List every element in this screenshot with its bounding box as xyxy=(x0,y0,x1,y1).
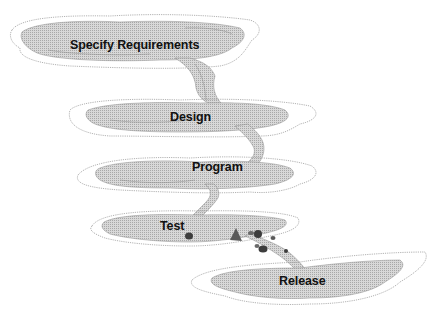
rock-icon xyxy=(259,246,268,253)
waterfall-diagram: Specify Requirements Design Program Test… xyxy=(0,0,437,321)
rock-icon xyxy=(254,230,262,238)
stage-label-specify-requirements: Specify Requirements xyxy=(70,38,199,52)
stage-label-release: Release xyxy=(279,274,326,288)
rock-icon xyxy=(248,231,254,235)
stage-label-design: Design xyxy=(170,110,211,124)
rock-icon xyxy=(284,249,288,253)
stream-test-to-release xyxy=(245,234,306,272)
rock-icon xyxy=(255,244,260,248)
stage-label-test: Test xyxy=(160,219,184,233)
stage-label-program: Program xyxy=(192,160,243,174)
rock-icon xyxy=(271,236,276,240)
stream-requirements-to-design xyxy=(175,58,222,104)
rock-icon xyxy=(185,233,193,240)
